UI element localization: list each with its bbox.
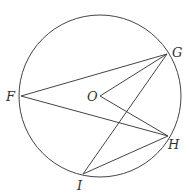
label-layer: FGOHI [5, 45, 182, 193]
geometry-diagram: FGOHI [0, 0, 189, 196]
point-label-i: I [76, 178, 83, 193]
segment-layer [21, 54, 168, 174]
point-label-o: O [87, 89, 98, 104]
point-label-g: G [172, 45, 182, 60]
segment-og [100, 54, 167, 96]
point-label-h: H [167, 137, 180, 152]
point-label-f: F [5, 89, 16, 104]
